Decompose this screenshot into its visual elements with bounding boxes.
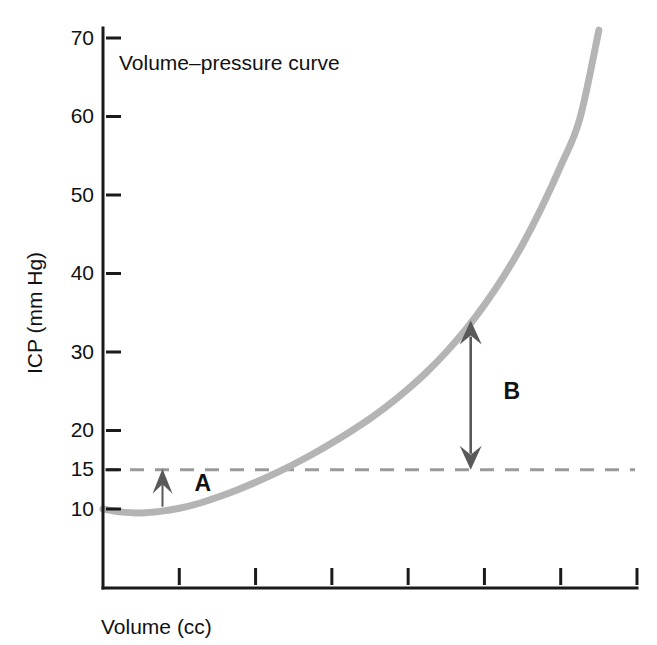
y-tick-label: 10 [71, 497, 94, 520]
y-tick-label: 50 [71, 183, 94, 206]
y-tick-label: 60 [71, 104, 94, 127]
y-tick-label: 40 [71, 261, 94, 284]
figure-background [0, 0, 657, 645]
annotation-label: B [504, 378, 521, 404]
y-tick-label: 20 [71, 418, 94, 441]
chart-title: Volume–pressure curve [119, 51, 340, 74]
y-axis-title: ICP (mm Hg) [23, 252, 46, 374]
volume-pressure-chart: 7060504030201510 AB Volume–pressure curv… [0, 0, 657, 645]
y-tick-label: 70 [71, 26, 94, 49]
y-tick-label: 15 [71, 457, 94, 480]
y-tick-label: 30 [71, 340, 94, 363]
chart-figure: 7060504030201510 AB Volume–pressure curv… [0, 0, 657, 645]
annotation-label: A [195, 470, 212, 496]
x-axis-title: Volume (cc) [101, 615, 212, 638]
